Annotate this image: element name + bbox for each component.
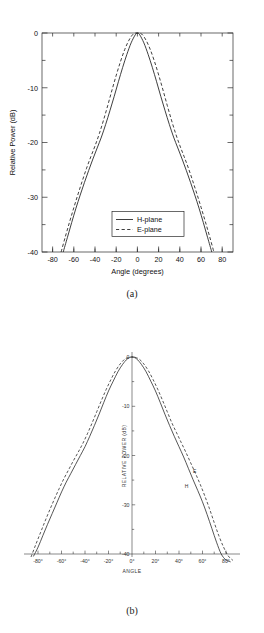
curve-annotation-h: H: [185, 483, 189, 489]
x-tick-label: 0: [135, 255, 139, 264]
legend-label-h-plane: H-plane: [137, 215, 162, 224]
y-axis-title: Relative Power (dB): [8, 110, 17, 176]
x-tick-label: -60°: [57, 558, 67, 564]
figure-a-caption: (a): [0, 288, 264, 299]
y-tick-label: -10: [122, 403, 130, 409]
x-tick-label: 60: [197, 255, 205, 264]
plot-a-x-tick-labels: -80 -60 -40 -20 0 20 40 60 80: [47, 255, 226, 264]
antenna-pattern-chart-b: -80° -60° -40° -20° 0° 20° 40° 60° 80° A…: [0, 316, 264, 602]
y-tick-label: -30: [28, 193, 38, 202]
plot-b-container: -80° -60° -40° -20° 0° 20° 40° 60° 80° A…: [0, 316, 264, 602]
curve-annotation-e: E: [193, 468, 197, 474]
plot-a-container: -80 -60 -40 -20 0 20 40 60 80 Angle (deg…: [0, 0, 264, 286]
x-tick-label: -40°: [80, 558, 90, 564]
y-axis-title: RELATIVE POWER (dB): [121, 425, 127, 488]
figure-b: -80° -60° -40° -20° 0° 20° 40° 60° 80° A…: [0, 316, 264, 633]
x-tick-label: -60: [69, 255, 79, 264]
x-tick-label: -40: [90, 255, 100, 264]
y-tick-label: 0: [34, 29, 38, 38]
figure-b-caption: (b): [0, 605, 264, 616]
antenna-pattern-chart-a: -80 -60 -40 -20 0 20 40 60 80 Angle (deg…: [0, 0, 264, 286]
x-tick-label: 20°: [152, 558, 160, 564]
y-tick-label: -30: [122, 502, 130, 508]
x-tick-label: 60°: [199, 558, 207, 564]
legend-label-e-plane: E-plane: [137, 225, 162, 234]
plot-b-y-ticks: [132, 357, 135, 529]
y-tick-label: -10: [28, 84, 38, 93]
y-tick-label: -40: [122, 551, 130, 557]
legend-a: H-plane E-plane: [112, 212, 184, 237]
x-tick-label: -80°: [33, 558, 43, 564]
figure-a: -80 -60 -40 -20 0 20 40 60 80 Angle (deg…: [0, 0, 264, 316]
x-tick-label: 40°: [175, 558, 183, 564]
x-tick-label: 0°: [130, 558, 135, 564]
x-tick-label: -20°: [104, 558, 114, 564]
x-tick-label: 80: [218, 255, 226, 264]
y-tick-label: -40: [28, 248, 38, 257]
x-axis-title: ANGLE: [123, 568, 142, 574]
plot-b-x-tick-labels: -80° -60° -40° -20° 0° 20° 40° 60° 80°: [33, 558, 230, 564]
plot-a-y-tick-labels: 0 -10 -20 -30 -40: [28, 29, 38, 257]
x-tick-label: 20: [155, 255, 163, 264]
x-axis-title: Angle (degrees): [111, 267, 164, 276]
x-tick-label: 40: [176, 255, 184, 264]
x-tick-label: -20: [111, 255, 121, 264]
x-tick-label: -80: [47, 255, 57, 264]
y-tick-label: -20: [28, 138, 38, 147]
